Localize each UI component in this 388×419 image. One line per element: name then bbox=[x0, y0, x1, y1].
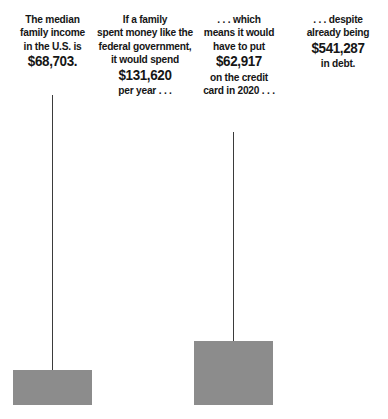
value-label-existing-debt: $541,287 bbox=[292, 40, 384, 58]
caption-line: federal government, bbox=[94, 40, 197, 53]
caption-line: The median bbox=[5, 13, 100, 26]
caption-line: spent money like the bbox=[94, 26, 197, 39]
value-label-credit-card: $62,917 bbox=[194, 53, 284, 71]
infographic-chart: The median family income in the U.S. is … bbox=[0, 0, 388, 419]
chart-column-federal-spending: If a family spent money like the federal… bbox=[88, 0, 202, 419]
caption-line: card in 2020 . . . bbox=[195, 84, 283, 97]
caption-credit-card: . . . which means it would have to put $… bbox=[190, 13, 288, 98]
chart-column-credit-card: . . . which means it would have to put $… bbox=[190, 0, 288, 419]
caption-line: per year . . . bbox=[94, 84, 197, 97]
value-label-federal-spending: $131,620 bbox=[93, 67, 198, 85]
caption-line: it would spend bbox=[94, 53, 197, 66]
caption-line: on the credit bbox=[195, 71, 283, 84]
caption-line: . . . despite bbox=[293, 13, 383, 26]
caption-line: in the U.S. is bbox=[5, 40, 100, 53]
bar-median-income bbox=[13, 370, 92, 405]
caption-line: family income bbox=[5, 26, 100, 39]
caption-line: means it would bbox=[195, 26, 283, 39]
connector-line-median-income bbox=[52, 95, 53, 370]
caption-line: have to put bbox=[195, 40, 283, 53]
caption-line: already being bbox=[293, 26, 383, 39]
caption-federal-spending: If a family spent money like the federal… bbox=[88, 13, 202, 98]
chart-column-existing-debt: . . . despite already being $541,287 in … bbox=[288, 0, 388, 419]
caption-line: If a family bbox=[94, 13, 197, 26]
value-label-median-income: $68,703. bbox=[4, 53, 101, 71]
caption-line: . . . which bbox=[195, 13, 283, 26]
caption-line: in debt. bbox=[293, 57, 383, 70]
caption-existing-debt: . . . despite already being $541,287 in … bbox=[288, 13, 388, 71]
